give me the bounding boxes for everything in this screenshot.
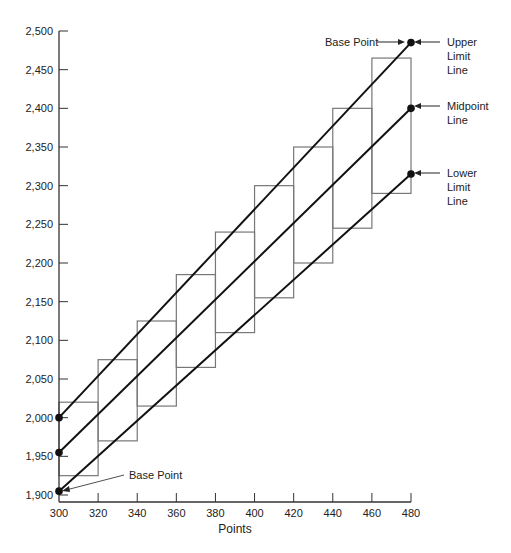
x-axis-title: Points (218, 522, 251, 536)
x-tick-label: 440 (324, 507, 342, 519)
y-tick-label: 2,400 (25, 102, 53, 114)
annotation-base-point-top: Base Point (325, 36, 405, 48)
y-tick-label: 1,950 (25, 450, 53, 462)
step-box (137, 321, 176, 406)
lower-limit-label-1: Lower (447, 167, 477, 179)
salary-range-chart: 1,9001,9502,0002,0502,1002,1502,2002,250… (0, 0, 511, 553)
lower-limit-line (59, 174, 411, 491)
data-point-dot (55, 449, 63, 457)
arrowhead-icon (414, 170, 421, 176)
x-tick-label: 320 (89, 507, 107, 519)
data-point-dot (407, 105, 415, 113)
upper-limit-label-1: Upper (447, 36, 477, 48)
y-tick-label: 2,050 (25, 373, 53, 385)
x-tick-label: 300 (50, 507, 68, 519)
step-box (59, 402, 98, 475)
y-tick-label: 2,350 (25, 141, 53, 153)
lower-limit-label-2: Limit (447, 181, 470, 193)
data-point-dot (55, 414, 63, 422)
base-point-bottom-label: Base Point (129, 469, 182, 481)
arrowhead-icon (398, 39, 405, 45)
axes: 1,9001,9502,0002,0502,1002,1502,2002,250… (25, 25, 420, 519)
y-tick-label: 2,500 (25, 25, 53, 37)
midpoint-label-2: Line (447, 114, 468, 126)
x-tick-label: 340 (128, 507, 146, 519)
annotation-upper-limit: Upper Limit Line (414, 36, 477, 76)
y-tick-label: 2,300 (25, 180, 53, 192)
data-point-dot (407, 170, 415, 178)
y-tick-label: 2,250 (25, 218, 53, 230)
step-boxes (59, 58, 411, 476)
x-tick-label: 420 (284, 507, 302, 519)
upper-limit-label-3: Line (447, 64, 468, 76)
step-box (215, 232, 254, 333)
y-tick-label: 2,150 (25, 296, 53, 308)
x-tick-label: 460 (363, 507, 381, 519)
x-tick-label: 400 (245, 507, 263, 519)
midpoint-label-1: Midpoint (447, 100, 489, 112)
step-box (98, 360, 137, 441)
data-point-dot (407, 39, 415, 47)
midpoint-line (59, 108, 411, 452)
data-point-dot (55, 487, 63, 495)
y-tick-label: 1,900 (25, 489, 53, 501)
y-tick-label: 2,450 (25, 64, 53, 76)
range-lines (55, 39, 415, 495)
x-tick-label: 360 (167, 507, 185, 519)
x-tick-label: 480 (402, 507, 420, 519)
upper-limit-line (59, 43, 411, 418)
y-tick-label: 2,100 (25, 334, 53, 346)
arrowhead-icon (414, 103, 421, 109)
upper-limit-label-2: Limit (447, 50, 470, 62)
x-tick-label: 380 (206, 507, 224, 519)
annotation-lower-limit: Lower Limit Line (414, 167, 477, 207)
y-tick-label: 2,200 (25, 257, 53, 269)
arrowhead-icon (414, 39, 421, 45)
y-tick-label: 2,000 (25, 412, 53, 424)
step-box (176, 275, 215, 368)
lower-limit-label-3: Line (447, 195, 468, 207)
step-box (333, 108, 372, 228)
base-point-top-label: Base Point (325, 36, 378, 48)
annotation-midpoint: Midpoint Line (414, 100, 489, 126)
